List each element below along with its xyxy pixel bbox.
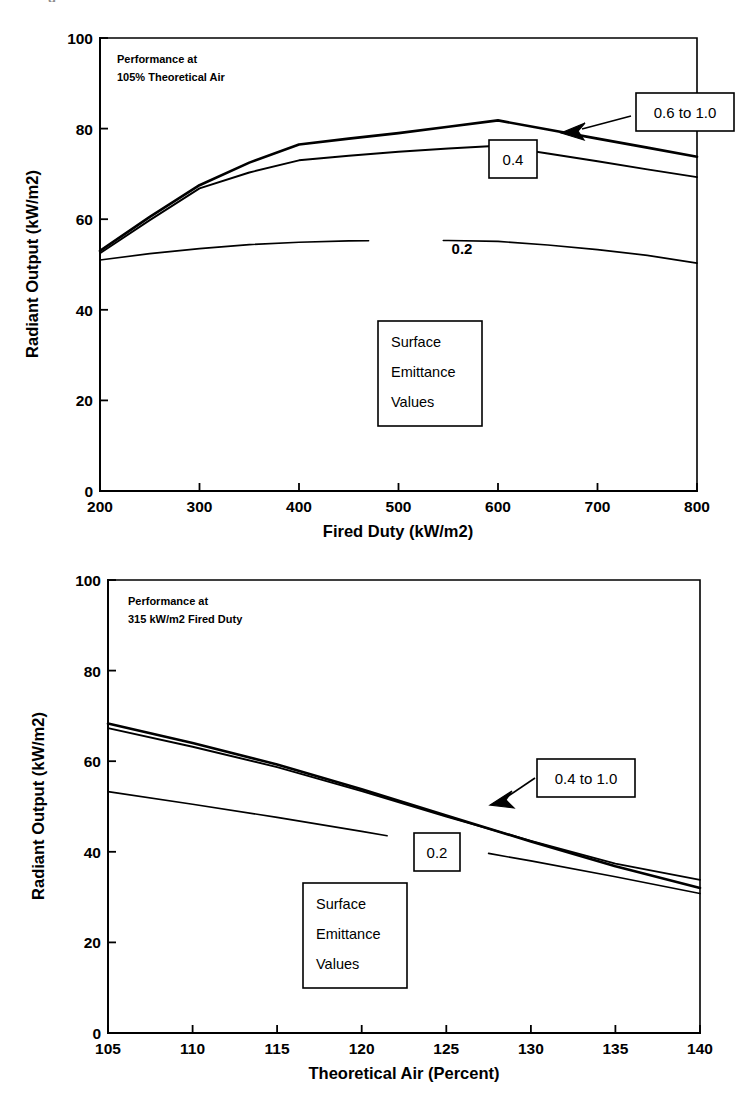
chart-2-y-axis-title: Radiant Output (kW/m2)	[29, 712, 47, 900]
chart-2-legend-box: Surface Emittance Values	[303, 883, 407, 988]
chart-1-callout-label-0-2: 0.2	[452, 240, 473, 257]
chart-2-xtick-140: 140	[687, 1040, 713, 1057]
chart-1-y-ticks: 0 20 40 60 80 100	[67, 30, 108, 500]
chart-1-note-line-1: Performance at	[117, 53, 197, 65]
chart-2-xtick-115: 115	[265, 1040, 290, 1057]
chart-2-xtick-125: 125	[433, 1040, 459, 1057]
chart-1-series-0-2-right	[443, 241, 697, 264]
chart-1-legend-line-3: Values	[391, 394, 434, 410]
chart-2-callout-label-0-4-to-1-0: 0.4 to 1.0	[555, 770, 618, 787]
chart-1-note-line-2: 105% Theoretical Air	[117, 71, 226, 83]
chart-1-legend-line-1: Surface	[391, 334, 441, 350]
chart-2-callout-0-4-to-1-0[interactable]: 0.4 to 1.0	[490, 759, 635, 808]
chart-2-note-line-1: Performance at	[128, 595, 208, 607]
chart-2-series-group	[108, 724, 700, 894]
chart-1-callout-0-2: 0.2	[452, 240, 473, 257]
chart-1-callout-0-6-to-1-0[interactable]: 0.6 to 1.0	[561, 93, 734, 140]
chart-1-ytick-80: 80	[76, 121, 93, 138]
chart-2-ytick-20: 20	[84, 934, 101, 951]
chart-1-x-axis-title: Fired Duty (kW/m2)	[323, 522, 473, 540]
chart-2-ytick-80: 80	[84, 663, 101, 680]
chart-radiant-output-vs-theoretical-air: 0 20 40 60 80 100 105 110 115 120	[0, 552, 740, 1120]
chart-1-x-ticks: 200 300 400 500 600 700 800	[87, 483, 710, 515]
chart-1-ytick-20: 20	[76, 392, 93, 409]
chart-1-xtick-500: 500	[386, 498, 412, 515]
chart-2-canvas: 0 20 40 60 80 100 105 110 115 120	[0, 552, 740, 1120]
chart-radiant-output-vs-fired-duty: 0 20 40 60 80 100 200 300 400 500	[0, 0, 740, 552]
chart-2-legend-line-2: Emittance	[316, 926, 380, 942]
chart-2-series-0-2-left	[108, 792, 387, 836]
chart-1-series-0-6-to-1-0	[100, 120, 697, 251]
chart-1-ytick-40: 40	[76, 302, 93, 319]
chart-2-ytick-40: 40	[84, 844, 101, 861]
chart-1-xtick-600: 600	[485, 498, 511, 515]
chart-1-xtick-800: 800	[684, 498, 710, 515]
chart-1-ytick-100: 100	[67, 30, 93, 47]
chart-2-legend-line-3: Values	[316, 956, 359, 972]
chart-2-xtick-130: 130	[518, 1040, 544, 1057]
chart-1-series-group	[100, 120, 697, 263]
chart-2-xtick-120: 120	[349, 1040, 375, 1057]
chart-1-xtick-700: 700	[585, 498, 611, 515]
chart-2-legend-line-1: Surface	[316, 896, 366, 912]
chart-2-callout-label-0-2: 0.2	[427, 844, 448, 861]
chart-1-callout-label-0-4: 0.4	[503, 151, 524, 168]
figure-page: g 0 20 40 60 80 100	[0, 0, 740, 1120]
chart-1-legend-line-2: Emittance	[391, 364, 455, 380]
chart-1-xtick-400: 400	[286, 498, 312, 515]
chart-2-xtick-110: 110	[180, 1040, 205, 1057]
chart-1-note: Performance at 105% Theoretical Air	[117, 53, 226, 83]
chart-2-note-line-2: 315 kW/m2 Fired Duty	[128, 613, 243, 625]
chart-2-xtick-135: 135	[602, 1040, 628, 1057]
chart-1-series-0-4	[100, 146, 697, 253]
chart-2-y-ticks: 0 20 40 60 80 100	[75, 572, 116, 1042]
chart-2-x-axis-title: Theoretical Air (Percent)	[308, 1064, 499, 1082]
chart-1-callout-label-0-6-to-1-0: 0.6 to 1.0	[654, 104, 717, 121]
chart-2-callout-0-2[interactable]: 0.2	[414, 833, 460, 871]
chart-2-x-ticks: 105 110 115 120 125 130 135 140	[95, 1025, 713, 1057]
chart-1-xtick-200: 200	[87, 498, 113, 515]
chart-1-ytick-60: 60	[76, 211, 93, 228]
chart-1-callout-0-4[interactable]: 0.4	[489, 140, 537, 178]
chart-2-ytick-100: 100	[75, 572, 101, 589]
chart-2-xtick-105: 105	[95, 1040, 121, 1057]
chart-1-legend-box: Surface Emittance Values	[378, 321, 482, 426]
chart-1-canvas: 0 20 40 60 80 100 200 300 400 500	[0, 0, 740, 552]
chart-1-y-axis-title: Radiant Output (kW/m2)	[23, 170, 41, 358]
chart-2-note: Performance at 315 kW/m2 Fired Duty	[128, 595, 243, 625]
chart-1-xtick-300: 300	[187, 498, 213, 515]
chart-2-series-1-0-upper	[108, 728, 700, 880]
chart-2-ytick-60: 60	[84, 753, 101, 770]
chart-1-series-0-2-left	[100, 241, 369, 260]
